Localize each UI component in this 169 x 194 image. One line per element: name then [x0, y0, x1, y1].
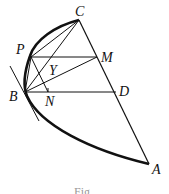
- parabola-diagram: C P M Y B N D A Fig.: [0, 0, 169, 194]
- label-N: N: [44, 94, 55, 109]
- label-D: D: [118, 84, 129, 99]
- label-P: P: [15, 42, 25, 57]
- segment-PN: [31, 57, 48, 92]
- label-C: C: [75, 4, 85, 19]
- figure-caption: Fig.: [74, 185, 93, 194]
- segment-BM: [25, 57, 97, 92]
- label-M: M: [100, 50, 114, 65]
- label-B: B: [9, 89, 18, 104]
- label-A: A: [151, 162, 161, 177]
